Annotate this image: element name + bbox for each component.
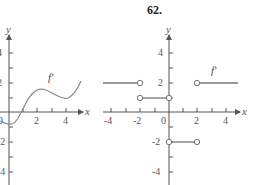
x-axis-label: x (84, 105, 90, 117)
x-ticks (23, 108, 66, 112)
y-tick-label: 4 (0, 47, 2, 58)
x-tick-label: 2 (194, 115, 199, 126)
y-tick-label: 4 (158, 47, 163, 58)
x-tick-label: -4 (104, 115, 112, 126)
y-axis-label: y (165, 23, 171, 35)
x-axis-label: x (241, 105, 247, 117)
x-tick-label: 4 (223, 115, 228, 126)
y-tick-label: -2 (0, 136, 5, 147)
x-tick-label: 0 (161, 115, 166, 126)
x-tick-label: 4 (63, 115, 68, 126)
x-tick-label: -2 (133, 115, 141, 126)
curve-label: f' (211, 64, 217, 76)
y-tick-label: -4 (0, 166, 5, 177)
y-axis-label: y (5, 23, 11, 35)
y-tick-label: -2 (152, 136, 160, 147)
y-tick-label: 2 (0, 77, 2, 88)
f-prime-curve (0, 81, 81, 124)
curve-label: f' (48, 71, 54, 83)
x-tick-label: 0 (0, 115, 3, 126)
right-chart: y x 4 2 -2 -4 -4 -2 0 2 4 f' (103, 23, 247, 185)
left-chart: y x 4 2 -2 -4 0 2 4 f' (0, 23, 90, 185)
y-tick-label: -4 (152, 166, 160, 177)
y-tick-label: 2 (158, 77, 163, 88)
charts-canvas: y x 4 2 -2 -4 0 2 4 f' (0, 0, 260, 185)
x-tick-label: 2 (34, 115, 39, 126)
